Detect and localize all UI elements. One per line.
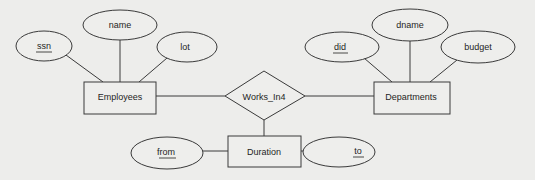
entity-employees[interactable]: Employees (84, 82, 156, 114)
entity-duration-label: Duration (247, 147, 281, 157)
attribute-name-label: name (109, 20, 132, 30)
did-departments-line (364, 58, 392, 82)
attribute-dname[interactable]: dname (372, 9, 448, 41)
attribute-ssn-label: ssn (37, 41, 51, 51)
entity-employees-label: Employees (98, 92, 143, 102)
attribute-budget-label: budget (464, 42, 492, 52)
attribute-lot[interactable]: lot (157, 32, 217, 62)
attribute-name[interactable]: name (83, 10, 157, 40)
entity-duration[interactable]: Duration (228, 136, 301, 167)
attribute-dname-label: dname (396, 20, 424, 30)
attribute-did-label: did (334, 42, 346, 52)
relationship-works-in4[interactable]: Works_In4 (225, 71, 305, 120)
relationship-works-in4-label: Works_In4 (243, 92, 286, 102)
attribute-did[interactable]: did (305, 32, 379, 62)
attribute-to-label: to (354, 146, 362, 156)
ssn-employees-line (66, 55, 103, 82)
attribute-ssn[interactable]: ssn (16, 31, 72, 61)
attribute-budget[interactable]: budget (441, 31, 515, 63)
lot-employees-line (139, 58, 167, 82)
attribute-lot-label: lot (180, 42, 190, 52)
budget-departments-line (430, 60, 457, 82)
entity-departments-label: Departments (385, 92, 437, 102)
attribute-from[interactable]: from (131, 137, 203, 169)
attribute-to[interactable]: to (303, 137, 375, 167)
attribute-from-label: from (157, 147, 175, 157)
entity-departments[interactable]: Departments (374, 82, 450, 114)
er-diagram: ssn name lot Employees Works_In4 Departm… (0, 0, 535, 180)
